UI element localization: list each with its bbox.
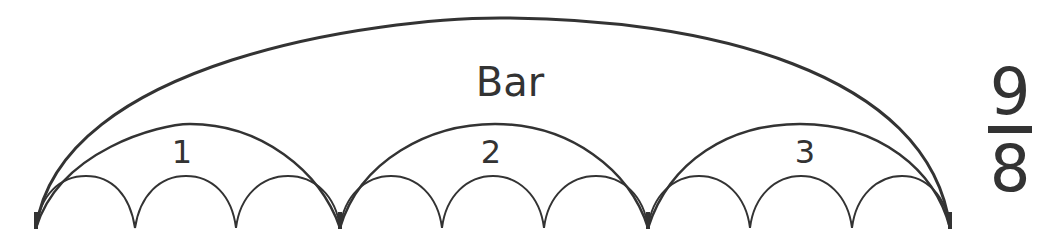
arc-diagram [0, 0, 1056, 243]
beat-boundaries [36, 212, 950, 229]
subdivision-arcs [36, 176, 950, 228]
time-signature-numerator: 9 [978, 60, 1042, 124]
time-signature-denominator: 8 [978, 137, 1042, 201]
beat-label-3: 3 [795, 136, 815, 168]
beat-label-2: 2 [481, 136, 501, 168]
bar-label: Bar [476, 62, 544, 102]
time-signature: 9 8 [978, 60, 1042, 201]
beat-label-1: 1 [172, 136, 192, 168]
